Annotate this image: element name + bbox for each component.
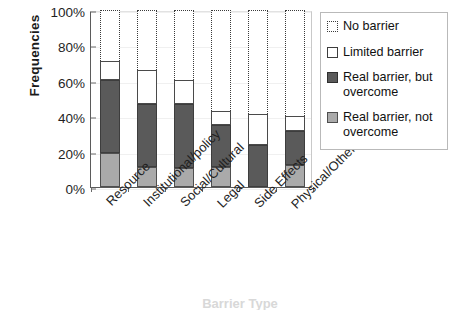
bar-segment-limited-barrier <box>174 80 194 104</box>
bar-segment-limited-barrier <box>285 116 305 131</box>
y-axis-tick-label: 40% <box>58 111 85 126</box>
bar-segment-real-barrier-but-overcome <box>248 145 268 187</box>
bar-group <box>128 12 165 187</box>
x-axis-labels: ResourceInstitutional/policySocial/Cultu… <box>90 190 330 285</box>
legend-item-real-barrier-but-overcome[interactable]: Real barrier, but overcome <box>326 70 443 99</box>
legend-item-label: Real barrier, but overcome <box>343 70 443 99</box>
bar-segment-limited-barrier <box>100 61 120 80</box>
y-axis-tick-label: 80% <box>58 40 85 55</box>
bar-segment-limited-barrier <box>211 111 231 125</box>
bar-segment-no-barrier <box>285 10 305 116</box>
bar-segment-real-barrier-but-overcome <box>100 80 120 153</box>
light-gray-square-swatch-icon <box>327 112 338 123</box>
legend-item-label: Real barrier, not overcome <box>343 110 443 139</box>
dotted-outline-swatch-icon <box>327 21 338 32</box>
y-axis-tick-label: 20% <box>58 146 85 161</box>
legend-item-no-barrier[interactable]: No barrier <box>326 19 443 34</box>
legend-item-limited-barrier[interactable]: Limited barrier <box>326 45 443 60</box>
bar-segment-real-barrier-not-overcome <box>100 153 120 187</box>
legend-item-label: No barrier <box>343 19 399 34</box>
bar-group <box>239 12 276 187</box>
bar-segment-no-barrier <box>211 10 231 111</box>
legend-item-label: Limited barrier <box>343 45 424 60</box>
y-axis-tick-label: 0% <box>65 182 85 197</box>
chart-legend: No barrier Limited barrier Real barrier,… <box>320 12 448 150</box>
white-square-swatch-icon <box>327 47 338 58</box>
bar-segment-limited-barrier <box>248 114 268 146</box>
y-axis-title: Frequencies <box>27 0 42 116</box>
dark-gray-square-swatch-icon <box>327 72 338 83</box>
bar-segment-no-barrier <box>100 10 120 61</box>
bar-segment-real-barrier-but-overcome <box>137 104 157 167</box>
bar-segment-no-barrier <box>248 10 268 114</box>
bar-stack[interactable] <box>248 10 268 187</box>
bar-segment-no-barrier <box>137 10 157 70</box>
bar-stack[interactable] <box>100 10 120 187</box>
legend-item-real-barrier-not-overcome[interactable]: Real barrier, not overcome <box>326 110 443 139</box>
y-axis-tick-label: 100% <box>50 5 85 20</box>
bar-segment-no-barrier <box>174 10 194 80</box>
plot-area: 0%20%40%60%80%100% <box>90 11 312 188</box>
bar-segment-limited-barrier <box>137 70 157 104</box>
y-axis-tick-label: 60% <box>58 75 85 90</box>
bar-group <box>91 12 128 187</box>
x-axis-title: Barrier Type <box>150 296 330 310</box>
